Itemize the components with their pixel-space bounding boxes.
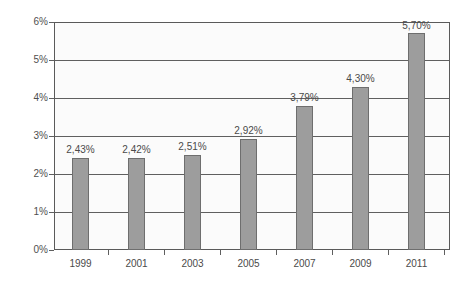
bar-value-label-2005: 2,92%	[219, 125, 279, 136]
x-axis-label-2001: 2001	[107, 258, 167, 269]
bar-2003	[184, 155, 201, 250]
bar-2009	[352, 87, 369, 250]
x-tick-mark-6	[444, 250, 445, 255]
y-tick-mark-1pct	[49, 212, 54, 213]
gridline-3pct	[55, 136, 449, 137]
y-tick-mark-2pct	[49, 174, 54, 175]
y-tick-mark-3pct	[49, 136, 54, 137]
x-tick-mark-5	[388, 250, 389, 255]
y-tick-mark-5pct	[49, 60, 54, 61]
y-axis-label-0pct: 0%	[8, 245, 48, 255]
x-axis-label-2011: 2011	[387, 258, 447, 269]
bar-2001	[128, 158, 145, 250]
bar-value-label-1999: 2,43%	[51, 144, 111, 155]
bar-1999	[72, 158, 89, 250]
y-tick-mark-0pct	[49, 250, 54, 251]
x-tick-mark-0	[108, 250, 109, 255]
x-tick-mark-1	[164, 250, 165, 255]
x-axis-label-1999: 1999	[51, 258, 111, 269]
bar-chart: 6% 5% 4% 3% 2% 1% 0% 2,43% 2,42% 2,51% 2…	[0, 0, 476, 287]
x-axis-label-2007: 2007	[275, 258, 335, 269]
y-axis-label-1pct: 1%	[8, 207, 48, 217]
x-axis-label-2009: 2009	[331, 258, 391, 269]
y-axis-label-6pct: 6%	[8, 17, 48, 27]
bar-value-label-2007: 3,79%	[275, 92, 335, 103]
y-tick-mark-4pct	[49, 98, 54, 99]
x-tick-mark-4	[332, 250, 333, 255]
y-tick-mark-6pct	[49, 22, 54, 23]
x-tick-mark-3	[276, 250, 277, 255]
bar-2011	[408, 33, 425, 250]
bar-value-label-2001: 2,42%	[107, 144, 167, 155]
y-axis-label-4pct: 4%	[8, 93, 48, 103]
gridline-5pct	[55, 60, 449, 61]
bar-value-label-2003: 2,51%	[163, 141, 223, 152]
y-axis-label-5pct: 5%	[8, 55, 48, 65]
gridline-4pct	[55, 98, 449, 99]
bar-2005	[240, 139, 257, 250]
x-tick-mark-2	[220, 250, 221, 255]
y-axis-label-3pct: 3%	[8, 131, 48, 141]
bar-value-label-2011: 5,70%	[387, 20, 447, 31]
x-axis-label-2005: 2005	[219, 258, 279, 269]
y-axis-label-2pct: 2%	[8, 169, 48, 179]
x-axis-label-2003: 2003	[163, 258, 223, 269]
bar-2007	[296, 106, 313, 250]
bar-value-label-2009: 4,30%	[331, 73, 391, 84]
